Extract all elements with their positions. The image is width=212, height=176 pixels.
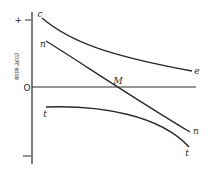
curve-t-end-label: t <box>185 148 189 158</box>
y-axis-label: 한 계 효 용 <box>14 52 20 80</box>
marginal-utility-diagram: + 한 계 효 용 O c e n n M t t <box>0 0 212 176</box>
intersection-m-label: M <box>112 76 123 86</box>
curve-n-start-label: n <box>40 39 46 49</box>
curve-t <box>46 107 189 147</box>
origin-label: O <box>23 83 30 93</box>
curve-c <box>42 18 192 71</box>
y-axis-label-char-1: 한 <box>14 52 20 59</box>
curve-c-end-label: e <box>194 66 199 76</box>
plus-label: + <box>14 15 22 25</box>
curve-t-start-label: t <box>43 109 47 119</box>
y-axis-label-char-3: 효 <box>14 66 20 73</box>
y-axis-label-char-4: 용 <box>14 73 20 80</box>
curve-c-start-label: c <box>37 9 42 19</box>
curve-n-end-label: n <box>193 126 199 136</box>
